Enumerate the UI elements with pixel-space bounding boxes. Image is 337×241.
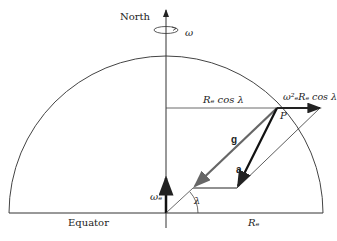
omega-e-label: ωₑ [150, 192, 162, 202]
north-label: North [120, 12, 150, 22]
omega-label: ω [185, 28, 193, 38]
a-label: a [236, 165, 242, 175]
point-p-label: P [280, 111, 287, 121]
equator-label: Equator [68, 218, 109, 228]
centripetal-label: ω²ₑRₑ cos λ [283, 92, 337, 102]
acceleration-vector [238, 108, 277, 186]
parallelogram-side [237, 108, 320, 188]
g-label: g [231, 135, 237, 145]
lambda-label: λ [194, 196, 200, 206]
rcos-label: Rₑ cos λ [203, 95, 244, 105]
radius-line [166, 188, 193, 213]
re-label: Rₑ [248, 218, 259, 228]
